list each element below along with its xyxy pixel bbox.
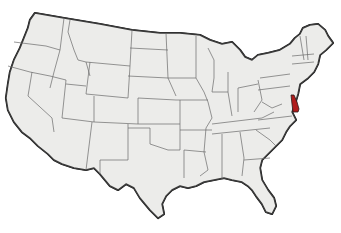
us-map: United States Delaware [0, 0, 341, 233]
us-map-svg [0, 0, 341, 233]
land-mass [6, 13, 333, 218]
